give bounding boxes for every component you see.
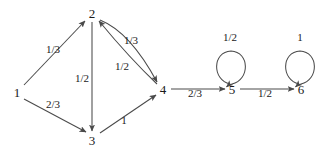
edge-label-1-to-3: 2/3 [46, 99, 60, 110]
edge-label-2-to-3: 1/2 [75, 73, 89, 84]
edge-label-4-to-2: 1/2 [115, 61, 129, 72]
node-label-4: 4 [160, 83, 167, 96]
edge-label-4-to-5: 2/3 [188, 88, 202, 99]
edge-label-self-loop-6: 1 [297, 32, 303, 43]
edge-label-2-to-4: 1/3 [124, 35, 138, 46]
node-label-6: 6 [298, 83, 305, 96]
edge-4-to-2 [99, 21, 157, 84]
edge-label-1-to-2: 1/3 [46, 44, 60, 55]
graph-canvas [0, 0, 332, 161]
edge-2-to-4 [100, 20, 157, 82]
edge-3-to-4 [100, 95, 156, 133]
edge-label-self-loop-5: 1/2 [223, 32, 237, 43]
edge-label-3-to-4: 1 [121, 115, 127, 126]
edge-label-5-to-6: 1/2 [258, 88, 272, 99]
node-label-3: 3 [89, 134, 96, 147]
markov-chain-diagram: 1 2 3 4 5 6 1/3 2/3 1/2 1/3 1/2 1 2/3 1/… [0, 0, 332, 161]
node-label-5: 5 [229, 83, 236, 96]
node-label-2: 2 [89, 7, 96, 20]
node-label-1: 1 [14, 86, 21, 99]
